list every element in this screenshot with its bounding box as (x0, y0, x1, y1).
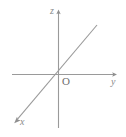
coordinate-axes-figure: z y x O (0, 0, 126, 137)
x-axis-line (18, 25, 98, 119)
z-axis-label: z (50, 6, 54, 16)
x-axis-label: x (20, 117, 24, 127)
origin-label: O (62, 76, 70, 87)
axes-drawing (0, 0, 126, 137)
y-axis-label: y (111, 77, 115, 87)
